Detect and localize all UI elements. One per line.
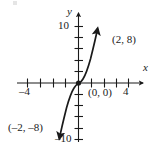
y-axis-label: y <box>67 6 72 17</box>
y-tick-label-negative-10: –10 <box>55 133 72 144</box>
x-tick-label-4: 4 <box>123 86 129 97</box>
point-label-2-8: (2, 8) <box>112 34 136 45</box>
origin-point-marker <box>76 80 81 85</box>
y-tick-label-10: 10 <box>58 20 69 31</box>
point-label-negative-2-negative-8: (–2, –8) <box>8 122 43 133</box>
cubic-graph-figure: y x 10 –10 –4 4 (2, 8) (0, 0) (–2, –8) <box>0 0 155 154</box>
x-tick-label-negative-4: –4 <box>19 86 30 97</box>
point-label-origin: (0, 0) <box>88 87 112 98</box>
x-axis-label: x <box>143 62 148 73</box>
